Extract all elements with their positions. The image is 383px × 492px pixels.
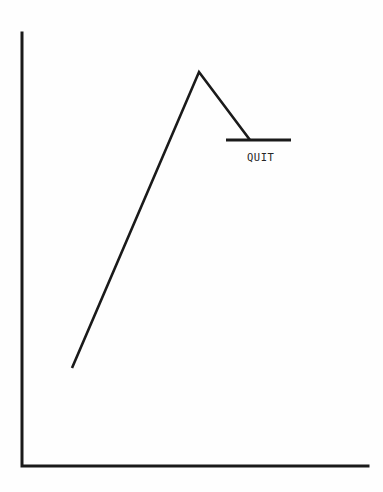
chart-canvas: QUIT (0, 0, 383, 492)
chart-series-trace (72, 72, 250, 368)
chart-axes (22, 33, 368, 466)
quit-label: QUIT (247, 151, 274, 163)
chart-figure: QUIT (0, 0, 383, 492)
